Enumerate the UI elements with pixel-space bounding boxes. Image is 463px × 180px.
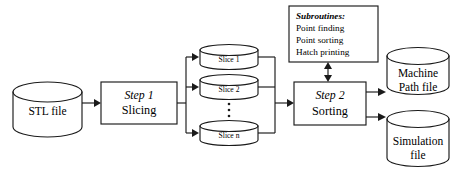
node-step2: Step 2 Sorting <box>294 82 366 125</box>
step1-title: Step 1 <box>124 88 153 102</box>
subroutines-item-point-finding: Point finding <box>296 23 345 33</box>
connector-subroutines-to-step2 <box>324 62 332 82</box>
connector-step2-to-simulation-file <box>366 113 386 121</box>
step2-title: Step 2 <box>315 88 344 102</box>
process-flowchart: STL file Step 1 Slicing Sli <box>0 0 463 180</box>
node-simulation-file: Simulation file <box>387 111 449 167</box>
arrowhead-up-icon <box>324 62 332 69</box>
ellipsis-dot <box>228 109 231 112</box>
arrowhead-icon <box>192 129 199 137</box>
slice-n-label: Slice n <box>219 131 240 140</box>
step2-subtitle: Sorting <box>312 104 348 118</box>
step1-subtitle: Slicing <box>122 103 157 117</box>
arrowhead-icon <box>378 113 386 121</box>
ellipsis-dot <box>228 103 231 106</box>
ellipsis-dot <box>228 115 231 118</box>
simulation-file-label-line2: file <box>410 149 425 161</box>
arrowhead-down-icon <box>324 75 332 82</box>
node-subroutines: Subroutines: Point finding Point sorting… <box>289 6 378 62</box>
flowchart-canvas: STL file Step 1 Slicing Sli <box>0 0 463 180</box>
connector-slices-to-step2 <box>258 57 294 133</box>
stl-file-label: STL file <box>28 105 66 117</box>
subroutines-item-point-sorting: Point sorting <box>296 35 344 45</box>
arrowhead-icon <box>287 99 294 107</box>
subroutines-heading: Subroutines: <box>296 11 345 21</box>
node-step1: Step 1 Slicing <box>101 82 177 124</box>
node-slice-1: Slice 1 <box>200 45 258 70</box>
connector-step2-to-machine-path-file <box>366 88 386 96</box>
arrowhead-icon <box>192 53 199 61</box>
node-machine-path-file: Machine Path file <box>387 48 449 95</box>
subroutines-item-hatch-printing: Hatch printing <box>296 47 350 57</box>
arrowhead-icon <box>94 99 101 107</box>
arrowhead-icon <box>378 88 386 96</box>
slice-1-label: Slice 1 <box>219 55 240 64</box>
slice-2-label: Slice 2 <box>219 85 240 94</box>
slice-ellipsis-icon <box>228 103 231 118</box>
machine-path-file-label-line2: Path file <box>399 81 438 93</box>
connector-step1-to-slices <box>177 53 199 137</box>
node-stl-file: STL file <box>13 82 82 137</box>
node-slice-2: Slice 2 <box>200 75 258 100</box>
machine-path-file-label-line1: Machine <box>398 67 438 79</box>
node-slice-n: Slice n <box>200 121 258 146</box>
connector-stl-to-step1 <box>82 99 101 107</box>
simulation-file-label-line1: Simulation <box>393 135 444 147</box>
arrowhead-icon <box>192 83 199 91</box>
